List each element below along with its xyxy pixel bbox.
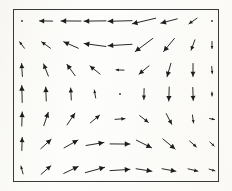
- vector-arrow-head: [69, 88, 73, 92]
- vector-arrow-head: [19, 64, 24, 69]
- vector-arrow-head: [44, 112, 49, 118]
- vector-arrow: [161, 19, 177, 25]
- vector-arrow-head: [61, 18, 66, 23]
- vector-arrow-head: [70, 113, 75, 119]
- vector-arrow-head: [189, 20, 193, 24]
- vector-arrow-head: [108, 43, 113, 48]
- vector-arrow-head: [98, 141, 104, 146]
- vector-arrow: [209, 169, 215, 172]
- arrow-group: [19, 18, 215, 174]
- vector-arrow: [64, 166, 78, 173]
- vector-arrow-head: [161, 19, 167, 24]
- vector-arrow-head: [43, 87, 48, 92]
- vector-arrow: [44, 112, 49, 125]
- vector-arrow-head: [146, 168, 152, 173]
- vector-arrow-head: [67, 64, 72, 70]
- quiver-plot-figure: [0, 0, 232, 191]
- vector-arrow: [189, 18, 197, 24]
- vector-arrow-head: [211, 93, 214, 96]
- vector-arrow: [69, 88, 73, 100]
- vector-arrow: [166, 63, 171, 76]
- vector-arrow: [136, 140, 151, 148]
- vector-arrow: [110, 141, 130, 146]
- vector-arrow: [21, 20, 23, 22]
- vector-arrow: [166, 87, 171, 101]
- vector-arrow-head: [125, 141, 130, 146]
- vector-arrow: [191, 88, 196, 101]
- vector-arrow: [93, 90, 96, 98]
- vector-arrow: [163, 139, 175, 149]
- vector-arrow: [166, 114, 172, 125]
- vector-arrow: [90, 115, 99, 123]
- vector-arrow: [132, 18, 155, 25]
- vector-arrow-head: [19, 112, 24, 117]
- vector-arrow: [40, 19, 53, 24]
- vector-arrow: [41, 166, 51, 175]
- vector-arrow: [43, 64, 48, 76]
- vector-arrow-head: [132, 20, 138, 25]
- vector-arrow: [19, 112, 24, 126]
- vector-field-canvas: [0, 0, 232, 191]
- vector-arrow-head: [211, 71, 214, 74]
- vector-arrow: [211, 67, 214, 74]
- vector-arrow-head: [84, 42, 90, 47]
- vector-arrow: [139, 66, 149, 74]
- vector-arrow-head: [191, 72, 196, 77]
- vector-arrow: [108, 43, 132, 48]
- vector-arrow: [67, 113, 75, 125]
- vector-arrow: [211, 92, 214, 96]
- vector-arrow: [86, 141, 104, 146]
- vector-arrow: [64, 41, 79, 48]
- vector-arrow-dot: [211, 20, 213, 22]
- vector-arrow: [20, 42, 25, 48]
- vector-arrow: [162, 168, 176, 173]
- vector-arrow: [42, 42, 51, 48]
- vector-arrow: [140, 116, 149, 123]
- vector-arrow: [192, 115, 195, 123]
- vector-arrow: [64, 140, 78, 148]
- vector-arrow-head: [211, 46, 214, 49]
- vector-arrow-head: [99, 166, 105, 171]
- vector-arrow-dot: [21, 20, 23, 22]
- vector-arrow: [43, 87, 48, 101]
- vector-arrow-head: [84, 18, 89, 23]
- vector-arrow: [119, 93, 121, 95]
- vector-arrow: [135, 38, 153, 51]
- vector-arrow: [142, 89, 146, 100]
- vector-arrow: [61, 18, 81, 23]
- vector-arrow: [188, 169, 198, 173]
- vector-arrow-head: [121, 117, 125, 121]
- vector-arrow: [20, 138, 25, 151]
- vector-arrow-head: [19, 86, 24, 91]
- vector-arrow: [190, 141, 197, 147]
- vector-arrow-head: [142, 96, 146, 100]
- vector-arrow-dot: [119, 93, 121, 95]
- vector-arrow-head: [191, 96, 196, 101]
- vector-arrow: [84, 42, 106, 47]
- vector-arrow-head: [135, 46, 141, 51]
- vector-arrow: [67, 64, 75, 75]
- vector-arrow-head: [170, 168, 175, 173]
- vector-arrow: [19, 64, 24, 77]
- vector-arrow: [191, 40, 195, 50]
- vector-arrow-head: [166, 71, 171, 77]
- vector-arrow: [115, 117, 125, 121]
- vector-arrow: [84, 18, 106, 23]
- vector-arrow: [210, 118, 215, 121]
- vector-arrow: [41, 139, 51, 148]
- vector-arrow: [90, 66, 100, 74]
- vector-arrow-head: [116, 68, 119, 71]
- vector-arrow: [19, 86, 24, 103]
- vector-arrow-head: [40, 19, 45, 24]
- vector-arrow: [211, 42, 214, 49]
- vector-arrow: [210, 142, 214, 146]
- vector-arrow: [110, 167, 130, 172]
- vector-arrow: [164, 38, 175, 51]
- vector-arrow-head: [194, 169, 198, 173]
- vector-arrow: [191, 64, 196, 77]
- vector-arrow: [136, 168, 152, 173]
- vector-arrow: [85, 166, 104, 173]
- vector-arrow-head: [20, 138, 25, 143]
- vector-arrow-head: [125, 167, 130, 172]
- vector-arrow: [116, 68, 124, 71]
